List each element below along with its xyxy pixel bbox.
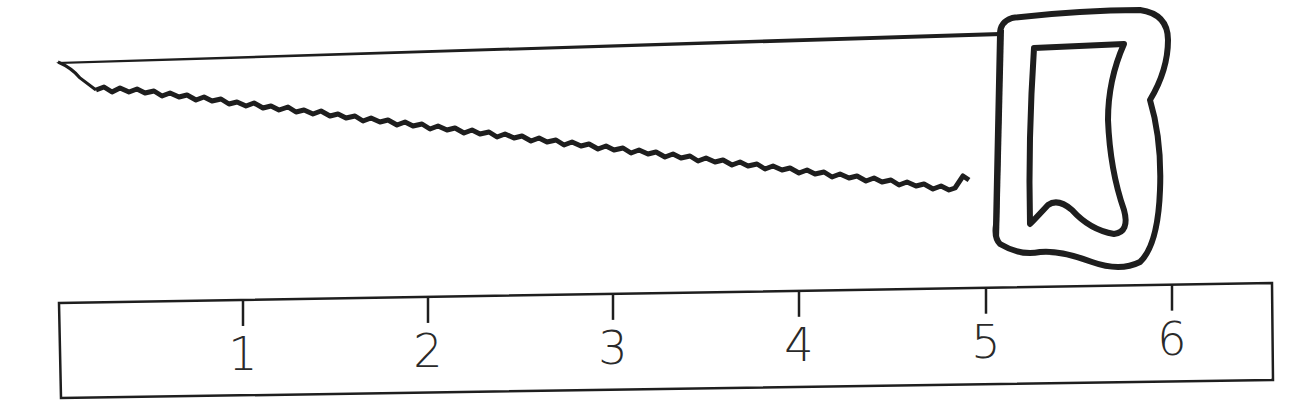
ruler-label-2: 2 — [413, 324, 442, 378]
saw-icon — [56, 10, 1168, 267]
saw-measurement-figure: 123456 — [0, 0, 1315, 412]
saw-blade-tip — [58, 62, 96, 90]
ruler-label-4: 4 — [784, 318, 813, 372]
ruler-ticks: 123456 — [228, 285, 1186, 381]
ruler-label-5: 5 — [971, 315, 1000, 369]
ruler-label-6: 6 — [1157, 312, 1186, 366]
saw-blade-teeth — [96, 87, 969, 190]
saw-blade-spine — [56, 32, 1002, 64]
saw-handle-grip-hole — [1030, 44, 1126, 234]
ruler-label-3: 3 — [598, 321, 627, 375]
figure-canvas: 123456 — [0, 0, 1315, 412]
ruler: 123456 — [59, 283, 1273, 398]
ruler-label-1: 1 — [228, 327, 257, 381]
